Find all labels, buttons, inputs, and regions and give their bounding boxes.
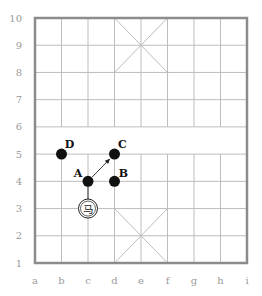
point-a-label: A: [73, 167, 83, 180]
column-label-f: f: [166, 275, 171, 286]
horse-piece: 马: [79, 199, 98, 218]
row-label-2: 2: [16, 230, 22, 241]
point-c-label: C: [118, 138, 127, 151]
row-label-5: 5: [16, 149, 22, 160]
column-label-h: h: [217, 275, 224, 286]
row-label-9: 9: [16, 40, 22, 51]
column-label-i: i: [245, 275, 248, 286]
xiangqi-board-diagram: 12345678910 abcdefghi ABCD 马: [0, 0, 262, 296]
point-b-label: B: [119, 167, 128, 180]
column-label-g: g: [191, 275, 198, 286]
row-label-3: 3: [16, 203, 22, 214]
row-label-10: 10: [9, 13, 22, 24]
row-label-8: 8: [16, 67, 22, 78]
point-d-label: D: [65, 138, 75, 151]
point-a-marker: [83, 176, 94, 187]
row-label-6: 6: [16, 121, 22, 132]
row-label-1: 1: [16, 258, 22, 269]
column-label-a: a: [32, 275, 38, 286]
horse-glyph-icon: 马: [83, 203, 93, 215]
marked-points: ABCD: [56, 138, 128, 187]
column-label-b: b: [58, 275, 64, 286]
column-label-c: c: [85, 275, 91, 286]
column-label-d: d: [111, 275, 118, 286]
column-label-e: e: [138, 275, 144, 286]
row-label-7: 7: [16, 94, 22, 105]
column-labels: abcdefghi: [32, 275, 249, 286]
row-labels: 12345678910: [9, 13, 22, 269]
row-label-4: 4: [16, 176, 22, 187]
